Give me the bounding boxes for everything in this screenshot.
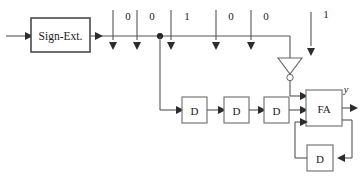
inverter-gate [278,58,302,74]
bit-column-arrow-icon-1 [109,42,117,50]
bit-column-arrow-icon-6 [307,48,315,56]
bit-value-4: 0 [228,10,234,22]
diagram-canvas: Sign-Ext. 0 0 1 0 0 1 [0,0,360,180]
delay-3-label: D [273,105,281,117]
sign-extension-label: Sign-Ext. [39,30,83,43]
full-adder-label: FA [317,103,330,115]
bit-value-1: 0 [125,10,131,22]
bit-value-6: 1 [323,8,329,20]
bit-value-5: 0 [263,10,269,22]
bit-value-3: 1 [184,10,190,22]
bit-column-arrow-icon-5 [247,42,255,50]
delay-2-label: D [233,105,241,117]
inverter-bubble-icon [287,74,293,80]
bit-column-arrow-icon-3 [167,42,175,50]
bit-column-arrow-icon-2 [133,42,141,50]
bit-value-2: 0 [149,10,155,22]
fa-output-arrow-icon [350,104,358,112]
bit-column-arrow-icon-4 [212,42,220,50]
output-label-y: y [343,84,349,95]
delay-1-label: D [191,105,199,117]
circuit-diagram: Sign-Ext. 0 0 1 0 0 1 [0,0,360,180]
carry-delay-input-arrow-icon [337,154,345,162]
carry-delay-label: D [316,153,324,165]
